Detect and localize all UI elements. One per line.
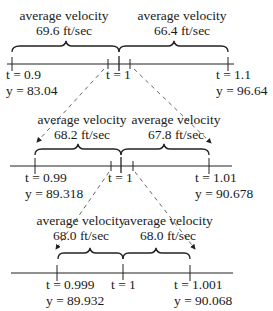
avg-velocity-label-left-2: average velocity 68.2 ft/sec [36,112,128,142]
y-value: y = 90.678 [195,186,253,202]
y-value: y = 89.318 [25,186,83,202]
diagram-lines [0,0,273,311]
t-value: t = 1.001 [174,277,232,293]
y-value: y = 90.068 [174,293,232,309]
avg-velocity-label-right-2: average velocity 67.8 ft/sec [130,112,222,142]
t-value: t = 1.01 [195,170,253,186]
t-value: t = 1 [111,277,136,293]
label-line: average velocity [36,213,126,228]
t-value: t = 0.9 [6,67,58,83]
label-value: 69.6 ft/sec [14,23,114,38]
t-value: t = 1.1 [216,67,268,83]
t-value: t = 1 [106,67,131,83]
point-center-3: t = 1 [111,277,136,293]
average-velocity-zoom-diagram: average velocity 69.6 ft/sec average vel… [0,0,273,311]
t-value: t = 1 [108,170,133,186]
point-center-1: t = 1 [106,67,131,83]
avg-velocity-label-left-1: average velocity 69.6 ft/sec [14,8,114,38]
point-right-3: t = 1.001 y = 90.068 [174,277,232,309]
point-right-1: t = 1.1 y = 96.64 [216,67,268,99]
label-line: average velocity [36,112,128,127]
point-left-3: t = 0.999 y = 89.932 [46,277,104,309]
avg-velocity-label-right-3: average velocity 68.0 ft/sec [124,213,212,243]
label-value: 67.8 ft/sec [130,127,222,142]
point-center-2: t = 1 [108,170,133,186]
label-line: average velocity [132,8,232,23]
t-value: t = 0.99 [25,170,83,186]
avg-velocity-label-right-1: average velocity 66.4 ft/sec [132,8,232,38]
avg-velocity-label-left-3: average velocity 68.0 ft/sec [36,213,126,243]
label-line: average velocity [124,213,212,228]
label-value: 66.4 ft/sec [132,23,232,38]
label-line: average velocity [130,112,222,127]
point-left-2: t = 0.99 y = 89.318 [25,170,83,202]
label-line: average velocity [14,8,114,23]
point-left-1: t = 0.9 y = 83.04 [6,67,58,99]
y-value: y = 83.04 [6,83,58,99]
label-value: 68.0 ft/sec [36,228,126,243]
label-value: 68.0 ft/sec [124,228,212,243]
y-value: y = 89.932 [46,293,104,309]
label-value: 68.2 ft/sec [36,127,128,142]
y-value: y = 96.64 [216,83,268,99]
t-value: t = 0.999 [46,277,104,293]
point-right-2: t = 1.01 y = 90.678 [195,170,253,202]
